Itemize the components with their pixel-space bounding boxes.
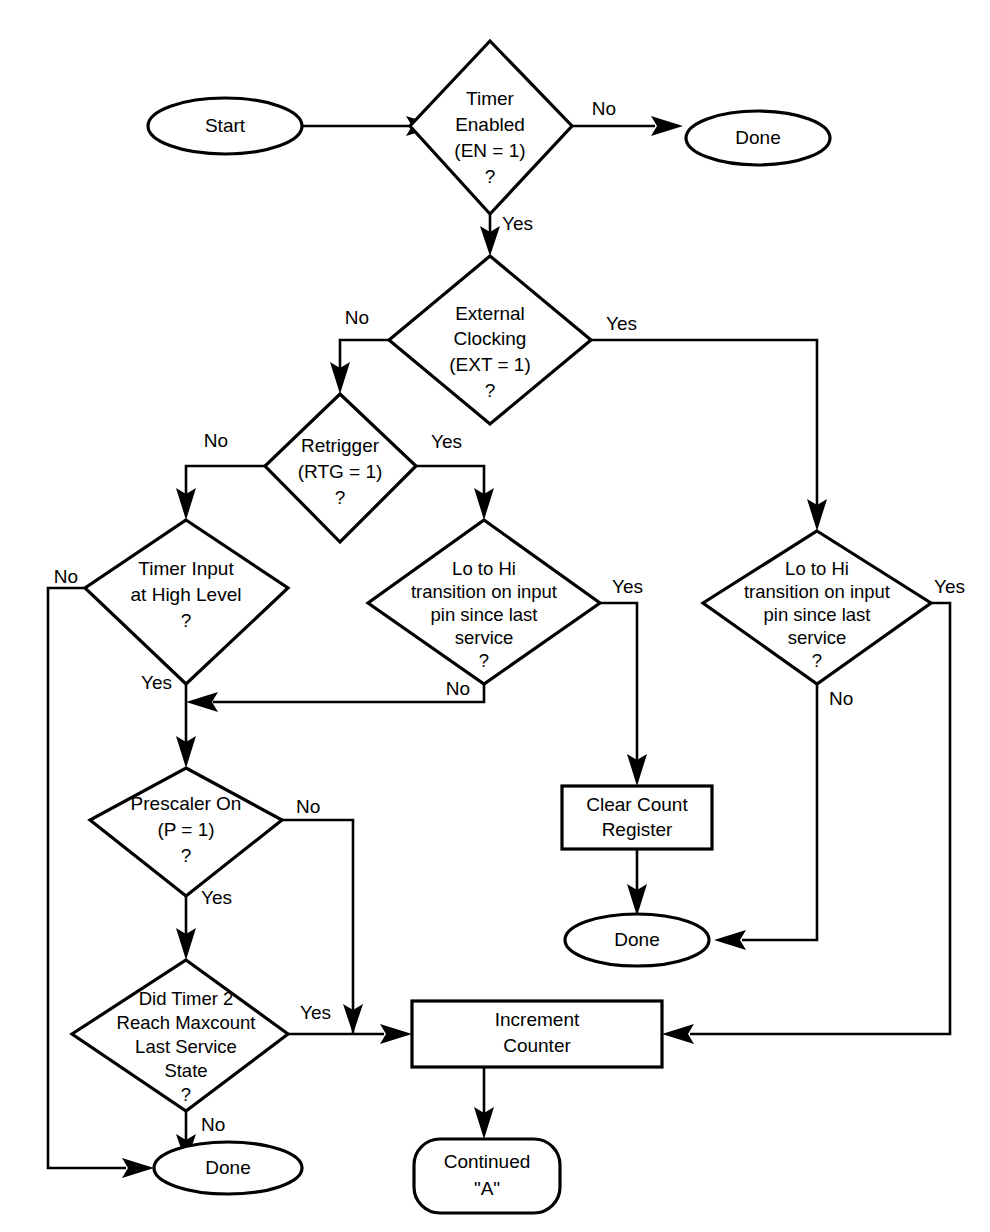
- node-lo-to-hi-right[interactable]: Lo to Hi transition on input pin since l…: [703, 531, 931, 684]
- edge-label-lo-to-hi-right-no: No: [829, 688, 853, 709]
- node-clear-count-line1: Clear Count: [586, 794, 688, 815]
- edge-label-external-clocking-no: No: [345, 307, 369, 328]
- edge-label-timer-input-no: No: [54, 566, 78, 587]
- node-external-clocking-line1: External: [455, 303, 525, 324]
- node-timer-enabled-line4: ?: [485, 166, 496, 187]
- connector-retrigger-yes: [416, 466, 484, 494]
- node-external-clocking-line3: (EXT = 1): [449, 354, 530, 375]
- arrowhead-timer-enabled-no: [651, 116, 683, 136]
- node-continued-line2: "A": [474, 1178, 500, 1199]
- edge-label-external-clocking-yes: Yes: [606, 313, 637, 334]
- connector-retrigger-no: [186, 466, 265, 494]
- node-clear-count-register[interactable]: Clear Count Register: [562, 786, 712, 849]
- node-maxcount-line3: Last Service: [135, 1036, 237, 1057]
- node-lo-to-hi-right-line1: Lo to Hi: [785, 558, 849, 579]
- node-retrigger-line2: (RTG = 1): [298, 461, 383, 482]
- node-done-right-label: Done: [614, 929, 659, 950]
- node-done-top-label: Done: [735, 127, 780, 148]
- arrowhead-timer-input-no: [122, 1158, 154, 1178]
- node-increment-line2: Counter: [503, 1035, 571, 1056]
- node-external-clocking-line4: ?: [485, 380, 496, 401]
- edge-label-maxcount-no: No: [201, 1114, 225, 1135]
- node-external-clocking[interactable]: External Clocking (EXT = 1) ?: [389, 256, 591, 424]
- node-prescaler-line1: Prescaler On: [131, 793, 242, 814]
- node-lo-to-hi-right-line5: ?: [812, 650, 822, 671]
- node-lo-to-hi-right-line4: service: [788, 627, 847, 648]
- node-increment-counter[interactable]: Increment Counter: [412, 1001, 662, 1067]
- node-lo-to-hi-right-line3: pin since last: [764, 604, 871, 625]
- node-prescaler-line2: (P = 1): [157, 819, 214, 840]
- edge-label-lo-to-hi-right-yes: Yes: [934, 576, 965, 597]
- arrowhead-lo-to-hi-right-no: [714, 930, 746, 950]
- edge-label-maxcount-yes: Yes: [300, 1002, 331, 1023]
- connector-lo-to-hi-mid-yes: [600, 603, 637, 760]
- node-start-label: Start: [205, 115, 246, 136]
- node-timer-enabled-line1: Timer: [466, 88, 515, 109]
- node-lo-to-hi-mid[interactable]: Lo to Hi transition on input pin since l…: [368, 520, 600, 684]
- node-lo-to-hi-mid-line1: Lo to Hi: [452, 558, 516, 579]
- edge-label-prescaler-yes: Yes: [201, 887, 232, 908]
- node-timer-enabled-line2: Enabled: [455, 114, 525, 135]
- node-clear-count-line2: Register: [602, 819, 673, 840]
- node-done-bottom[interactable]: Done: [154, 1142, 302, 1194]
- edge-label-timer-input-yes: Yes: [141, 672, 172, 693]
- edge-label-prescaler-no: No: [296, 796, 320, 817]
- arrowhead-maxcount-yes: [380, 1024, 412, 1044]
- node-maxcount-line5: ?: [181, 1084, 191, 1105]
- node-maxcount-line2: Reach Maxcount: [117, 1012, 256, 1033]
- connector-lo-to-hi-right-no: [742, 684, 817, 940]
- node-prescaler-line3: ?: [181, 845, 192, 866]
- node-done-bottom-label: Done: [205, 1157, 250, 1178]
- node-retrigger-line3: ?: [335, 487, 346, 508]
- node-continued-line1: Continued: [444, 1151, 531, 1172]
- node-timer-input-line3: ?: [181, 610, 192, 631]
- edge-label-timer-enabled-no: No: [592, 98, 616, 119]
- connector-external-clocking-yes: [591, 340, 817, 505]
- node-done-right[interactable]: Done: [565, 914, 709, 966]
- node-maxcount-line4: State: [164, 1060, 207, 1081]
- node-timer-enabled[interactable]: Timer Enabled (EN = 1) ?: [410, 41, 572, 214]
- node-retrigger[interactable]: Retrigger (RTG = 1) ?: [265, 394, 416, 542]
- node-done-top[interactable]: Done: [686, 111, 830, 165]
- node-did-timer2-maxcount[interactable]: Did Timer 2 Reach Maxcount Last Service …: [72, 960, 288, 1111]
- node-maxcount-line1: Did Timer 2: [139, 988, 234, 1009]
- node-continued-a[interactable]: Continued "A": [414, 1139, 560, 1213]
- edge-label-lo-to-hi-mid-no: No: [446, 678, 470, 699]
- node-timer-input-high[interactable]: Timer Input at High Level ?: [85, 520, 288, 684]
- connector-lo-to-hi-mid-no: [213, 684, 484, 702]
- flowchart-canvas: Start Timer Enabled (EN = 1) ? Done Exte…: [0, 0, 990, 1232]
- node-lo-to-hi-mid-line2: transition on input: [411, 581, 557, 602]
- node-timer-input-line1: Timer Input: [138, 558, 234, 579]
- node-timer-input-line2: at High Level: [131, 584, 242, 605]
- node-lo-to-hi-mid-line4: service: [455, 627, 514, 648]
- arrowhead-lo-to-hi-right-yes: [662, 1024, 694, 1044]
- node-lo-to-hi-mid-line3: pin since last: [431, 604, 538, 625]
- node-lo-to-hi-right-line2: transition on input: [744, 581, 890, 602]
- connector-timer-input-no: [48, 588, 126, 1168]
- node-lo-to-hi-mid-line5: ?: [479, 650, 489, 671]
- edge-label-timer-enabled-yes: Yes: [502, 213, 533, 234]
- edge-label-retrigger-yes: Yes: [431, 431, 462, 452]
- node-prescaler-on[interactable]: Prescaler On (P = 1) ?: [90, 768, 282, 896]
- node-external-clocking-line2: Clocking: [454, 328, 527, 349]
- edge-label-retrigger-no: No: [204, 430, 228, 451]
- node-increment-line1: Increment: [495, 1009, 580, 1030]
- flowchart-svg: Start Timer Enabled (EN = 1) ? Done Exte…: [0, 0, 990, 1232]
- edge-label-lo-to-hi-mid-yes: Yes: [612, 576, 643, 597]
- node-retrigger-line1: Retrigger: [301, 435, 380, 456]
- node-timer-enabled-line3: (EN = 1): [454, 140, 525, 161]
- node-start[interactable]: Start: [148, 98, 302, 154]
